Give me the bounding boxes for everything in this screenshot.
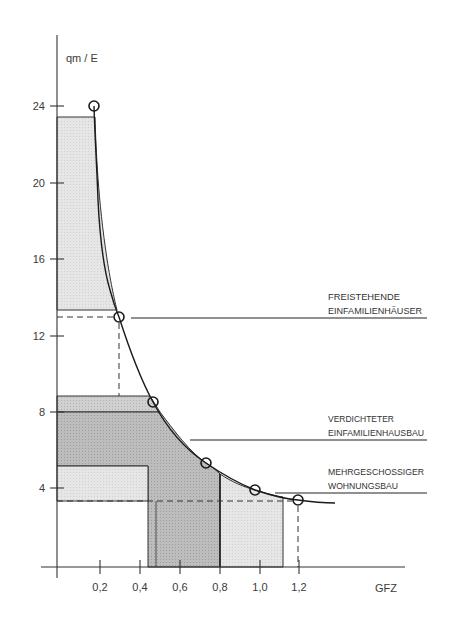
x-axis-title: GFZ xyxy=(375,582,397,594)
label-mehrgeschossig-line2: WOHNUNGSBAU xyxy=(328,480,398,491)
y-tick-label: 20 xyxy=(33,177,45,189)
x-tick-label: 1,2 xyxy=(291,581,306,593)
y-tick-label: 24 xyxy=(33,100,45,112)
x-tick-label: 1,0 xyxy=(252,581,267,593)
y-tick-label: 12 xyxy=(33,330,45,342)
y-tick-label: 8 xyxy=(39,406,45,418)
y-axis-title: qm / E xyxy=(66,52,98,64)
region-mehrgeschossig-left xyxy=(57,466,148,501)
x-tick-label: 0,2 xyxy=(92,581,107,593)
label-freistehende-line1: FREISTEHENDE xyxy=(328,291,400,302)
x-tick-label: 0,8 xyxy=(212,581,227,593)
x-tick-label: 0,6 xyxy=(172,581,187,593)
label-verdichtet-line2: EINFAMILIENHAUSBAU xyxy=(328,427,424,438)
region-verdichtet-upper xyxy=(57,396,160,412)
label-freistehende-line2: EINFAMILIENHÄUSER xyxy=(328,305,422,316)
label-verdichtet-line1: VERDICHTETER xyxy=(328,413,394,424)
y-tick-label: 4 xyxy=(39,482,45,494)
y-tick-label: 16 xyxy=(33,253,45,265)
label-mehrgeschossig-line1: MEHRGESCHOSSIGER xyxy=(328,466,424,477)
density-chart: 24 20 16 12 8 4 0,2 0,4 0,6 0,8 1,0 1,2 … xyxy=(0,0,456,623)
x-tick-label: 0,4 xyxy=(132,581,147,593)
